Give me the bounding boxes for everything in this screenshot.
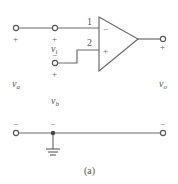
- terminal-va-plus: [13, 25, 18, 30]
- figure-caption: (a): [84, 165, 95, 177]
- label-va: va: [12, 78, 20, 91]
- junction-dot: [51, 131, 55, 135]
- vb-minus-sign: −: [50, 119, 55, 129]
- circuit-diagram: 1 2 − + + + − + + − − − vi va vb vo (a): [0, 0, 178, 184]
- terminal-vo-plus: [160, 36, 165, 41]
- label-vo: vo: [159, 78, 167, 91]
- terminal-vb-plus: [52, 60, 57, 65]
- va-plus-sign: +: [13, 34, 18, 44]
- opamp-inverting-sign: −: [103, 24, 108, 34]
- pin-label-2: 2: [87, 37, 92, 48]
- ground-icon: [46, 133, 60, 155]
- va-minus-sign: −: [13, 119, 18, 129]
- opamp-noninverting-sign: +: [103, 46, 108, 56]
- vo-plus-sign: +: [160, 42, 165, 52]
- wire-noninverting: [55, 50, 99, 63]
- vb-plus-sign: +: [52, 69, 57, 79]
- terminal-vi-plus: [52, 25, 57, 30]
- vo-minus-sign: −: [160, 119, 165, 129]
- terminal-va-minus: [13, 130, 18, 135]
- terminal-vo-minus: [160, 130, 165, 135]
- label-vb: vb: [51, 95, 59, 108]
- pin-label-1: 1: [87, 16, 92, 27]
